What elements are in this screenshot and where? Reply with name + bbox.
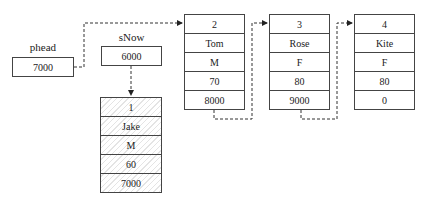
- arrow-rose-to-kite: [301, 23, 352, 119]
- arrow-phead-to-tom: [74, 23, 182, 67]
- pointer-arrows: [0, 0, 422, 204]
- arrow-tom-to-rose: [214, 23, 267, 119]
